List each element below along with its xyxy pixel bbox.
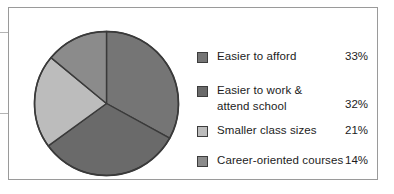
legend-item-smaller-class-sizes[interactable]: Smaller class sizes 21% — [197, 126, 377, 138]
legend-swatch-icon-0 — [197, 52, 208, 63]
legend-value-1: 32% — [345, 98, 368, 110]
legend-value-3: 14% — [345, 154, 368, 166]
legend-label-1-line2: attend school — [217, 100, 287, 112]
chart-frame: Easier to afford 33% Easier to work & at… — [8, 7, 378, 180]
legend-value-0: 33% — [345, 50, 368, 62]
legend-swatch-icon-1 — [197, 86, 208, 97]
legend-label-3: Career-oriented courses — [217, 154, 343, 166]
legend-item-easier-to-afford[interactable]: Easier to afford 33% — [197, 52, 377, 64]
legend-item-easier-to-work-attend-school[interactable]: Easier to work & attend school 32% — [197, 86, 377, 98]
legend-item-career-oriented-courses[interactable]: Career-oriented courses 14% — [197, 156, 377, 168]
pie-chart-figure: Easier to afford 33% Easier to work & at… — [0, 0, 394, 194]
legend-label-2: Smaller class sizes — [217, 124, 317, 136]
pie-svg — [33, 30, 180, 177]
legend-label-0: Easier to afford — [217, 50, 296, 62]
legend-swatch-icon-3 — [197, 156, 208, 167]
legend-label-1: Easier to work & — [217, 84, 302, 96]
legend-swatch-icon-2 — [197, 126, 208, 137]
legend-value-2: 21% — [345, 124, 368, 136]
pie-chart — [33, 30, 180, 177]
